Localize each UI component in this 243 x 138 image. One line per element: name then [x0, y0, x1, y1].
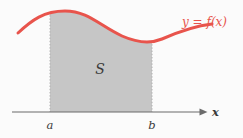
upper-bound-label-b: b: [148, 118, 155, 132]
area-under-curve-figure: S a b x y = f(x): [0, 0, 243, 138]
lower-bound-label-a: a: [47, 118, 54, 132]
region-label-s: S: [95, 61, 105, 77]
x-axis-arrow-icon: [200, 109, 208, 116]
x-axis-label: x: [211, 105, 219, 119]
figure-canvas: S a b x y = f(x): [0, 0, 243, 138]
function-label: y = f(x): [181, 15, 227, 29]
